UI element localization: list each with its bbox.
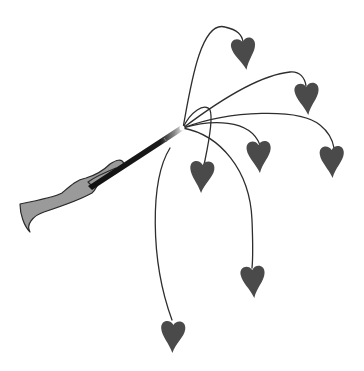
sparkle-icon: [180, 126, 185, 131]
string-middle-right: [183, 123, 260, 145]
wand: [88, 126, 185, 191]
heart-icon: [160, 321, 185, 354]
heart-icon: [319, 146, 344, 179]
heart-icon: [189, 161, 215, 194]
wand-hearts-scene: [0, 0, 364, 371]
string-bottom: [155, 148, 172, 320]
heart-icon: [230, 37, 258, 72]
string-upper-right: [183, 72, 306, 128]
heart-icon: [294, 82, 320, 115]
heart-icon: [240, 265, 266, 298]
wand-icon: [88, 126, 184, 190]
string-lower-right: [183, 128, 253, 268]
heart-icon: [246, 141, 272, 174]
